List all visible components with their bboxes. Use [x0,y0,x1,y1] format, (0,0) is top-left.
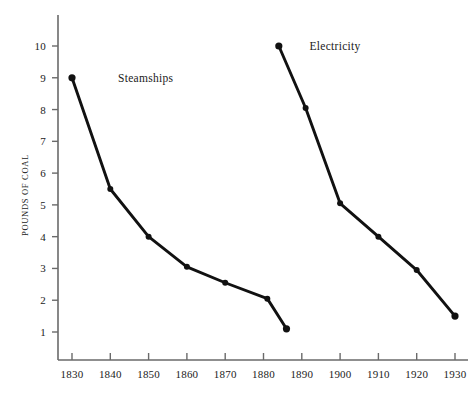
data-point-marker [264,296,270,302]
series-label-electricity: Electricity [309,40,360,52]
x-tick-label: 1890 [290,368,313,380]
series-line-electricity [279,46,455,316]
x-tick-label: 1830 [61,368,84,380]
data-point-marker [146,234,152,240]
x-tick-label: 1860 [175,368,198,380]
plot-area [0,0,476,401]
x-tick-label: 1850 [137,368,160,380]
y-tick-label: 6 [24,167,46,179]
x-tick-label: 1910 [367,368,390,380]
x-tick-label: 1900 [329,368,352,380]
y-tick-label: 2 [24,294,46,306]
x-tick-label: 1930 [444,368,467,380]
data-point-marker [68,74,75,81]
y-tick-label: 3 [24,262,46,274]
series-label-steamships: Steamships [118,72,173,84]
x-tick-label: 1920 [405,368,428,380]
series-line-steamships [72,78,286,329]
data-point-marker [303,105,309,111]
data-point-marker [375,234,381,240]
y-tick-label: 1 [24,326,46,338]
data-series [68,42,458,332]
y-tick-label: 8 [24,104,46,116]
y-tick-label: 9 [24,72,46,84]
y-tick-label: 4 [24,231,46,243]
y-tick-label: 5 [24,199,46,211]
y-tick-label: 7 [24,135,46,147]
data-point-marker [451,313,458,320]
data-point-marker [107,186,113,192]
x-tick-label: 1880 [252,368,275,380]
axes [52,15,468,360]
data-point-marker [414,267,420,273]
data-point-marker [275,42,282,49]
x-tick-label: 1870 [214,368,237,380]
data-point-marker [337,200,343,206]
coal-consumption-line-chart: POUNDS OF COAL 1830184018501860187018801… [0,0,476,401]
data-point-marker [283,325,290,332]
data-point-marker [184,264,190,270]
x-tick-label: 1840 [99,368,122,380]
data-point-marker [222,280,228,286]
y-tick-label: 10 [24,40,46,52]
